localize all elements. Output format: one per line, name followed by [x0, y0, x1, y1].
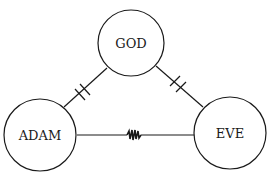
node-god-label: GOD [115, 36, 146, 51]
node-god: GOD [98, 10, 164, 76]
node-eve-label: EVE [216, 126, 244, 141]
relationship-diagram: GOD ADAM EVE [0, 0, 269, 172]
edge-god-eve [156, 66, 203, 107]
conflict-zigzag-icon [127, 130, 141, 140]
edge-god-adam [64, 68, 107, 107]
node-adam: ADAM [4, 99, 76, 171]
node-eve: EVE [194, 97, 266, 169]
cut-marker-god-adam [75, 84, 90, 100]
node-adam-label: ADAM [18, 128, 62, 143]
